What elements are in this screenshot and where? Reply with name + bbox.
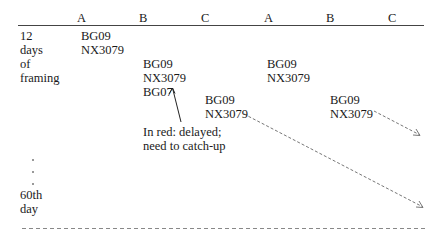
header-col-c2: C <box>388 11 396 25</box>
cell-item: NX3079 <box>81 43 124 57</box>
header-col-b1: B <box>139 11 147 25</box>
row-label-line: day <box>20 202 42 216</box>
short-dashed-arrow <box>374 111 420 136</box>
annotation-note: In red: delayed; need to catch-up <box>143 125 226 153</box>
row-label-start: 12 days of framing <box>20 29 60 85</box>
cell-item: BG09 <box>267 57 310 71</box>
row-label-line: 12 <box>20 29 60 43</box>
row-label-end: 60th day <box>20 188 42 216</box>
ellipsis-dot <box>32 171 34 173</box>
row-label-line: framing <box>20 71 60 85</box>
cell-item: BG09 <box>330 93 373 107</box>
cell-a2: BG09 NX3079 <box>267 57 310 85</box>
header-col-a2: A <box>264 11 273 25</box>
header-col-a1: A <box>77 11 86 25</box>
cell-item: BG09 <box>205 93 248 107</box>
cell-b1: BG09 NX3079 BG07 <box>143 57 186 99</box>
row-label-line: of <box>20 57 60 71</box>
ellipsis-dot <box>32 159 34 161</box>
cell-item: NX3079 <box>330 107 373 121</box>
cell-item: BG09 <box>81 29 124 43</box>
annotation-line: need to catch-up <box>143 139 226 153</box>
cell-c1: BG09 NX3079 <box>205 93 248 121</box>
row-label-line: 60th <box>20 188 42 202</box>
cell-a1: BG09 NX3079 <box>81 29 124 57</box>
cell-item: NX3079 <box>205 107 248 121</box>
header-col-b2: B <box>326 11 334 25</box>
cell-item: NX3079 <box>143 71 186 85</box>
cell-b2: BG09 NX3079 <box>330 93 373 121</box>
header-col-c1: C <box>201 11 209 25</box>
ellipsis-dot <box>32 183 34 185</box>
long-dashed-arrow <box>244 114 423 208</box>
cell-item: BG09 <box>143 57 186 71</box>
cell-item-delayed: BG07 <box>143 85 186 99</box>
row-label-line: days <box>20 43 60 57</box>
annotation-line: In red: delayed; <box>143 125 226 139</box>
cell-item: NX3079 <box>267 71 310 85</box>
